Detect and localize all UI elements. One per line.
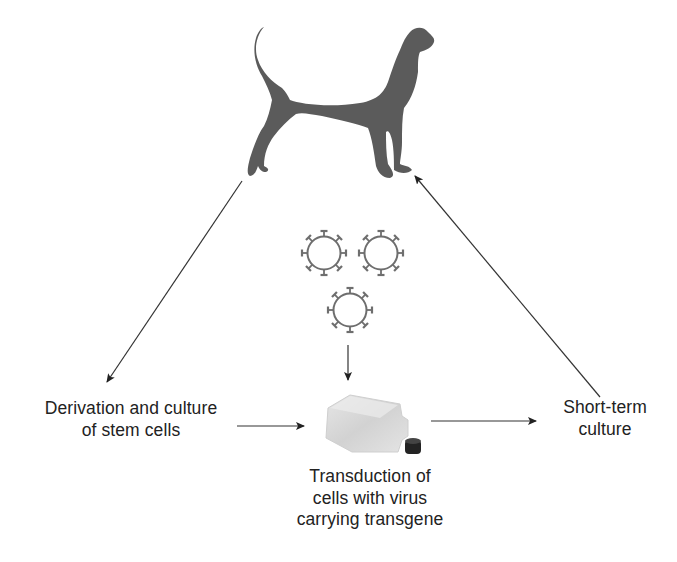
virus-icon	[359, 231, 403, 275]
dog-silhouette-icon	[248, 27, 435, 178]
arrow-dog-to-stem-cells	[107, 181, 242, 382]
label-line: carrying transgene	[280, 509, 460, 531]
label-line: Transduction of	[280, 466, 460, 488]
label-line: of stem cells	[20, 420, 242, 442]
label-derivation-and-culture: Derivation and culture of stem cells	[20, 398, 242, 441]
label-line: cells with virus	[280, 488, 460, 510]
label-short-term-culture: Short-term culture	[540, 397, 670, 440]
culture-flask-icon	[326, 395, 421, 454]
virus-icon	[302, 231, 346, 275]
label-line: culture	[540, 419, 670, 441]
virus-icon	[328, 288, 372, 332]
arrow-culture-to-dog	[415, 176, 600, 397]
label-line: Derivation and culture	[20, 398, 242, 420]
label-line: Short-term	[540, 397, 670, 419]
label-transduction: Transduction of cells with virus carryin…	[280, 466, 460, 531]
